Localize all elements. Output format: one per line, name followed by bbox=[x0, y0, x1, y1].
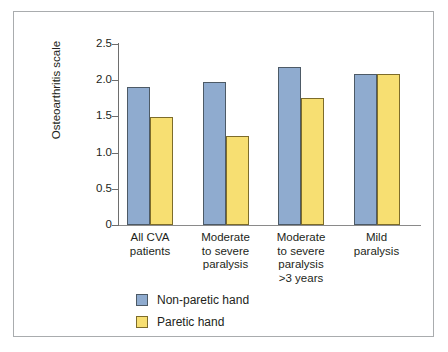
y-axis-tick-label: 2.0 bbox=[76, 74, 112, 85]
y-axis-tick-label-wrap: 1.0 bbox=[66, 147, 112, 158]
bar-non-paretic bbox=[203, 82, 226, 225]
y-axis-tick-label: 0.5 bbox=[76, 183, 112, 194]
legend-label: Non-paretic hand bbox=[157, 293, 249, 307]
bar-non-paretic bbox=[127, 87, 150, 225]
y-axis-tick bbox=[112, 189, 119, 190]
y-axis-tick-label-wrap: 2.0 bbox=[66, 74, 112, 85]
x-axis-category-label: Mild paralysis bbox=[327, 231, 427, 258]
y-axis-tick-label: 1.5 bbox=[76, 110, 112, 121]
y-axis-tick-label: 1.0 bbox=[76, 147, 112, 158]
bar-paretic bbox=[301, 98, 324, 225]
legend-label: Paretic hand bbox=[157, 315, 224, 329]
y-axis-tick bbox=[112, 116, 119, 117]
y-axis-tick-label: 0 bbox=[76, 219, 112, 230]
bar-paretic bbox=[226, 136, 249, 225]
y-axis-tick bbox=[112, 80, 119, 81]
legend-swatch-non-paretic bbox=[136, 294, 148, 306]
legend-item: Non-paretic hand bbox=[136, 290, 249, 309]
y-axis-tick-label-wrap: 0.5 bbox=[66, 183, 112, 194]
chart-legend: Non-paretic handParetic hand bbox=[136, 290, 249, 334]
y-axis-tick bbox=[112, 44, 119, 45]
chart-figure: Osteoarthritis scale 2.52.01.51.00.50 Al… bbox=[0, 0, 448, 352]
plot-area bbox=[119, 44, 420, 225]
y-axis-tick-label-wrap: 1.5 bbox=[66, 110, 112, 121]
y-axis-tick-label-wrap: 2.5 bbox=[66, 38, 112, 49]
x-axis-line bbox=[118, 225, 421, 226]
figure-frame: Osteoarthritis scale 2.52.01.51.00.50 Al… bbox=[13, 11, 434, 337]
y-axis-tick bbox=[112, 225, 119, 226]
y-axis-tick-label: 2.5 bbox=[76, 38, 112, 49]
bar-paretic bbox=[150, 117, 173, 225]
bar-non-paretic bbox=[354, 74, 377, 225]
bar-paretic bbox=[377, 74, 400, 225]
y-axis-title: Osteoarthritis scale bbox=[50, 10, 62, 170]
y-axis-tick-label-wrap: 0 bbox=[66, 219, 112, 230]
bar-non-paretic bbox=[278, 67, 301, 225]
y-axis-tick bbox=[112, 153, 119, 154]
legend-swatch-paretic bbox=[136, 316, 148, 328]
legend-item: Paretic hand bbox=[136, 312, 249, 331]
